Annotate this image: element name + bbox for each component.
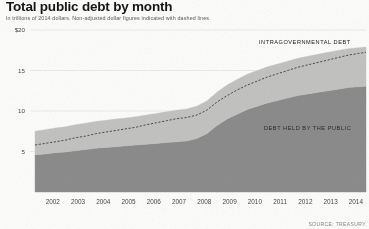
- y-axis-tick-label: 10: [18, 107, 25, 114]
- x-axis-tick-label: 2008: [197, 198, 212, 205]
- plot-area: 51015$20 2002200320042005200620072008200…: [0, 27, 369, 229]
- x-axis-tick-label: 2009: [222, 198, 237, 205]
- area-chart-svg: 51015$20 2002200320042005200620072008200…: [0, 27, 369, 229]
- x-axis-tick-labels: 2002200320042005200620072008200920102011…: [46, 198, 364, 205]
- y-axis-tick-label: $20: [15, 27, 26, 33]
- x-axis-tick-label: 2014: [349, 198, 364, 205]
- x-axis-tick-label: 2002: [46, 198, 61, 205]
- x-axis-tick-label: 2011: [273, 198, 287, 205]
- x-axis-tick-label: 2012: [298, 198, 313, 205]
- chart-subtitle: In trillions of 2014 dollars. Non-adjust…: [6, 15, 211, 21]
- x-axis-tick-label: 2013: [324, 198, 339, 205]
- x-axis-tick-label: 2006: [147, 198, 162, 205]
- page-title: Total public debt by month: [6, 0, 172, 14]
- x-axis-tick-label: 2004: [96, 198, 111, 205]
- chart-figure: Total public debt by month In trillions …: [0, 0, 369, 229]
- y-axis-tick-label: 5: [22, 148, 26, 155]
- stacked-areas: [35, 47, 366, 192]
- source-attribution: SOURCE: TREASURY: [308, 221, 366, 227]
- y-axis-tick-labels: 51015$20: [15, 27, 26, 155]
- x-axis-tick-label: 2007: [172, 198, 187, 205]
- y-axis-tick-label: 15: [18, 67, 25, 74]
- x-axis-tick-label: 2005: [121, 198, 136, 205]
- x-axis-tick-label: 2003: [71, 198, 86, 205]
- series-label-intragovernmental: INTRAGOVERNMENTAL DEBT: [259, 39, 351, 45]
- series-label-public: DEBT HELD BY THE PUBLIC: [264, 125, 351, 131]
- x-axis-tick-label: 2010: [248, 198, 263, 205]
